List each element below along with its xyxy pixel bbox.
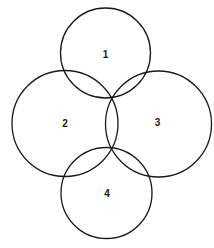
label-1: 1 — [103, 49, 109, 60]
label-4: 4 — [104, 188, 110, 199]
venn-diagram: 1 2 3 4 — [0, 0, 214, 248]
label-2: 2 — [62, 118, 68, 129]
label-3: 3 — [155, 117, 161, 128]
